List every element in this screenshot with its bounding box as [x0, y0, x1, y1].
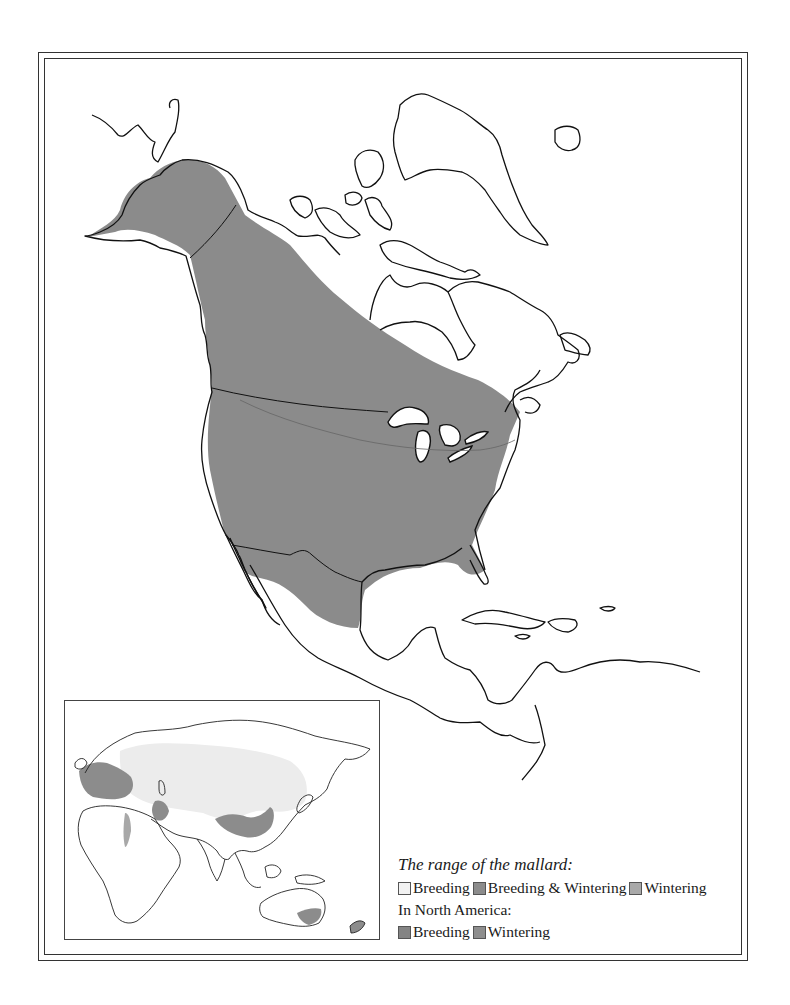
ellesmere-island [355, 150, 384, 187]
mallard-range-north-america [88, 160, 520, 628]
legend-subtitle: In North America: [398, 899, 748, 921]
new-guinea [295, 875, 325, 884]
legend-label: Breeding [413, 921, 470, 943]
legend-label: Wintering [644, 877, 706, 899]
wintering-swatch [629, 882, 642, 895]
arctic-island-1 [290, 196, 312, 218]
newfoundland [560, 333, 590, 355]
hispaniola [548, 619, 577, 632]
greenland [394, 94, 548, 245]
breeding-wintering-swatch [473, 882, 486, 895]
legend-row-world: Breeding Breeding & Wintering Wintering [398, 877, 748, 899]
legend-item-na-breeding: Breeding [398, 921, 470, 943]
legend-label: Breeding [413, 877, 470, 899]
borneo [265, 865, 281, 878]
arctic-island-4 [365, 198, 392, 230]
iceland [555, 126, 580, 150]
legend-item-na-wintering: Wintering [473, 921, 550, 943]
legend-row-north-america: Breeding Wintering [398, 921, 748, 943]
eurasia-inset-map [64, 700, 380, 940]
legend-item-breeding: Breeding [398, 877, 470, 899]
map-legend: The range of the mallard: Breeding Breed… [398, 854, 748, 943]
cuba [462, 610, 545, 628]
gulf-coast [360, 582, 700, 704]
puerto-rico [600, 607, 615, 612]
legend-label: Breeding & Wintering [488, 877, 627, 899]
breeding-swatch [398, 882, 411, 895]
legend-item-breeding-wintering: Breeding & Wintering [473, 877, 627, 899]
nova-scotia [520, 398, 540, 414]
baffin-island [380, 240, 480, 279]
arctic-island-3 [345, 192, 362, 205]
eurasia-africa-australia-map [65, 701, 380, 940]
legend-item-wintering: Wintering [629, 877, 706, 899]
legend-label: Wintering [488, 921, 550, 943]
legend-title: The range of the mallard: [398, 854, 748, 876]
southeast-asia-coast [235, 853, 261, 888]
nile-wintering [124, 813, 132, 847]
siberia-coast [92, 99, 179, 162]
na-wintering-swatch [473, 926, 486, 939]
jamaica [515, 635, 530, 640]
australia-breeding-wintering [297, 908, 321, 925]
arctic-island-2 [315, 208, 360, 238]
na-breeding-swatch [398, 926, 411, 939]
eurasia-breeding-range [120, 743, 307, 819]
